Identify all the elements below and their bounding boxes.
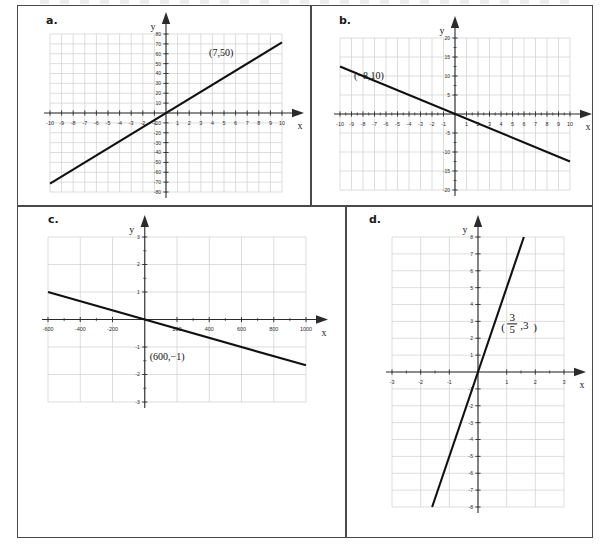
panel-b: b. -10-9-8-7-6-5-4-3-2-112345678910-20-1… (312, 6, 593, 205)
svg-text:-2: -2 (430, 121, 435, 127)
svg-text:-7: -7 (469, 487, 474, 493)
svg-text:-3: -3 (135, 399, 140, 405)
point-label: (−8,10) (354, 70, 384, 82)
svg-text:800: 800 (269, 326, 278, 332)
svg-text:6: 6 (470, 268, 473, 274)
svg-text:-9: -9 (59, 120, 64, 126)
svg-text:-20: -20 (443, 187, 450, 193)
svg-text:3: 3 (509, 311, 515, 323)
svg-text:6: 6 (523, 121, 526, 127)
svg-text:-8: -8 (71, 120, 76, 126)
panel-c-graph: -600-400-2002004006008001000-3-2-1123yx(… (18, 207, 345, 538)
svg-text:9: 9 (269, 120, 272, 126)
panel-d-graph: -3-2-1123-8-7-6-5-4-3-2-112345678yx(35,3… (347, 207, 593, 538)
svg-text:): ) (533, 323, 537, 334)
svg-text:7: 7 (534, 121, 537, 127)
svg-text:-7: -7 (82, 120, 87, 126)
svg-text:-1: -1 (447, 379, 452, 385)
svg-text:-400: -400 (75, 326, 86, 332)
y-axis-label: y (463, 224, 468, 235)
svg-text:-15: -15 (443, 168, 450, 174)
svg-text:2: 2 (188, 120, 191, 126)
svg-text:50: 50 (155, 61, 161, 67)
svg-text:-9: -9 (349, 121, 354, 127)
svg-text:5: 5 (511, 121, 514, 127)
svg-text:3: 3 (137, 234, 140, 240)
svg-text:8: 8 (257, 120, 260, 126)
svg-text:-60: -60 (154, 169, 161, 175)
svg-text:-7: -7 (372, 121, 377, 127)
svg-text:-4: -4 (117, 120, 122, 126)
svg-text:-40: -40 (154, 149, 161, 155)
svg-text:60: 60 (155, 51, 161, 57)
svg-text:-8: -8 (361, 121, 366, 127)
svg-text:2: 2 (470, 335, 473, 341)
svg-text:-5: -5 (446, 130, 451, 136)
x-axis-label: x (586, 121, 591, 132)
svg-text:7: 7 (246, 120, 249, 126)
svg-text:1000: 1000 (300, 326, 312, 332)
svg-text:-3: -3 (469, 420, 474, 426)
svg-text:-4: -4 (469, 436, 474, 442)
x-axis-label: x (298, 120, 303, 131)
svg-text:40: 40 (155, 70, 161, 76)
svg-text:400: 400 (205, 326, 214, 332)
svg-text:-200: -200 (107, 326, 118, 332)
svg-text:30: 30 (155, 80, 161, 86)
svg-text:7: 7 (470, 251, 473, 257)
svg-text:-2: -2 (469, 403, 474, 409)
y-axis-label: y (440, 25, 445, 36)
panel-b-graph: -10-9-8-7-6-5-4-3-2-112345678910-20-15-1… (312, 6, 593, 205)
svg-text:-5: -5 (106, 120, 111, 126)
svg-text:-80: -80 (154, 189, 161, 195)
svg-text:-10: -10 (443, 149, 450, 155)
panel-c: c. -600-400-2002004006008001000-3-2-1123… (18, 207, 345, 538)
svg-text:70: 70 (155, 41, 161, 47)
y-axis-label: y (151, 21, 156, 32)
svg-text:8: 8 (470, 234, 473, 240)
svg-text:-10: -10 (336, 121, 344, 127)
svg-text:5: 5 (223, 120, 226, 126)
panel-a: a. -10-9-8-7-6-5-4-3-2-112345678910-80-7… (18, 6, 310, 205)
svg-text:-20: -20 (154, 130, 161, 136)
svg-text:-3: -3 (418, 121, 423, 127)
svg-text:80: 80 (155, 31, 161, 37)
svg-text:10: 10 (444, 73, 450, 79)
y-axis-label: y (129, 224, 134, 235)
svg-text:600: 600 (237, 326, 246, 332)
svg-text:6: 6 (234, 120, 237, 126)
panel-d: d. -3-2-1123-8-7-6-5-4-3-2-112345678yx(3… (347, 207, 593, 538)
svg-text:5: 5 (470, 285, 473, 291)
svg-text:-5: -5 (395, 121, 400, 127)
svg-text:-600: -600 (43, 326, 54, 332)
svg-text:10: 10 (279, 120, 285, 126)
svg-text:-10: -10 (46, 120, 54, 126)
svg-text:10: 10 (155, 100, 161, 106)
svg-text:-2: -2 (135, 371, 140, 377)
x-axis-label: x (580, 379, 585, 390)
svg-text:20: 20 (155, 90, 161, 96)
x-axis-label: x (322, 327, 327, 338)
page-top-artifact (40, 0, 580, 4)
svg-text:1: 1 (465, 121, 468, 127)
svg-text:-1: -1 (441, 121, 446, 127)
svg-text:1: 1 (470, 352, 473, 358)
svg-text:,3: ,3 (520, 319, 529, 331)
svg-text:-1: -1 (135, 344, 140, 350)
panel-a-graph: -10-9-8-7-6-5-4-3-2-112345678910-80-70-6… (18, 6, 310, 205)
svg-text:-4: -4 (407, 121, 412, 127)
svg-text:-6: -6 (94, 120, 99, 126)
svg-text:-6: -6 (384, 121, 389, 127)
svg-text:-70: -70 (154, 179, 161, 185)
svg-text:8: 8 (546, 121, 549, 127)
svg-text:-50: -50 (154, 159, 161, 165)
svg-text:3: 3 (199, 120, 202, 126)
svg-text:10: 10 (567, 121, 573, 127)
svg-text:4: 4 (211, 120, 214, 126)
svg-text:3: 3 (470, 318, 473, 324)
svg-text:2: 2 (534, 379, 537, 385)
svg-text:-3: -3 (390, 379, 395, 385)
svg-text:-30: -30 (154, 140, 161, 146)
point-label: (7,50) (209, 47, 233, 59)
svg-text:(: ( (501, 323, 505, 334)
